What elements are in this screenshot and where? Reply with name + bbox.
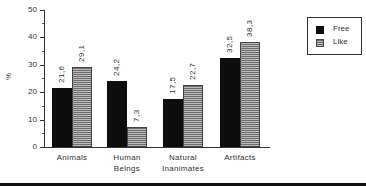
y-tick-label: 0 [15, 142, 37, 151]
y-minor-tick [42, 133, 44, 134]
legend-swatch-free [316, 26, 324, 34]
legend: Free Like [307, 17, 362, 55]
category-label-line: Animals [42, 152, 102, 163]
category-label-line: Inanimates [153, 163, 213, 174]
bar-value-label: 32,5 [225, 35, 234, 53]
y-tick-label: 40 [15, 32, 37, 41]
legend-swatch-like [316, 39, 324, 47]
y-minor-tick [42, 23, 44, 24]
bar-value-label: 22,7 [188, 62, 197, 80]
y-minor-tick [42, 51, 44, 52]
category-label-line: Beings [97, 163, 157, 174]
bar-like [127, 127, 147, 147]
bar-value-label: 21,6 [57, 65, 66, 83]
bar-like [183, 85, 203, 147]
bar-free [107, 81, 127, 147]
y-tick-label: 30 [15, 60, 37, 69]
x-axis [44, 147, 270, 148]
category-label: Animals [42, 152, 102, 163]
y-tick [40, 92, 44, 93]
category-label-line: Natural [153, 152, 213, 163]
y-tick [40, 37, 44, 38]
y-tick-label: 10 [15, 115, 37, 124]
category-label: NaturalInanimates [153, 152, 213, 174]
y-tick [40, 10, 44, 11]
category-label: HumanBeings [97, 152, 157, 174]
bar-value-label: 38,3 [245, 19, 254, 37]
category-label: Artifacts [210, 152, 270, 163]
y-tick-label: 50 [15, 5, 37, 14]
bar-value-label: 7,3 [132, 109, 141, 122]
bar-value-label: 24,2 [112, 58, 121, 76]
y-minor-tick [42, 106, 44, 107]
y-tick [40, 147, 44, 148]
y-tick-label: 20 [15, 87, 37, 96]
category-label-line: Human [97, 152, 157, 163]
y-axis-title: % [4, 73, 13, 80]
y-tick [40, 65, 44, 66]
bar-value-label: 17,5 [168, 76, 177, 94]
bar-like [240, 42, 260, 147]
category-label-line: Artifacts [210, 152, 270, 163]
bar-like [72, 67, 92, 147]
bar-free [52, 88, 72, 147]
y-axis [44, 10, 45, 147]
y-tick [40, 120, 44, 121]
y-minor-tick [42, 78, 44, 79]
legend-label-like: Like [333, 37, 348, 46]
bar-value-label: 29,1 [77, 44, 86, 62]
bottom-border [0, 183, 366, 186]
bar-free [220, 58, 240, 147]
bar-free [163, 99, 183, 147]
legend-label-free: Free [333, 24, 349, 33]
